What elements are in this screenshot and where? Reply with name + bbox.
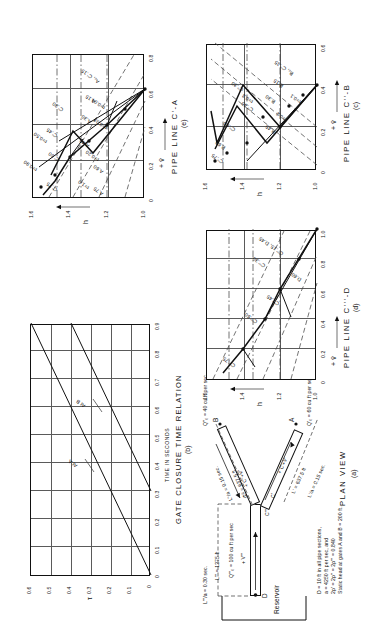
cpp-b-xlabel-arrow bbox=[332, 74, 342, 114]
xtick: 0.9 bbox=[154, 323, 160, 330]
gate-closure-ylabel: τ bbox=[86, 597, 93, 600]
figure-plate: Reservoir D A B bbox=[0, 0, 367, 628]
cpp-b-ylabel-arrow bbox=[228, 174, 268, 184]
ytick: 0.1 bbox=[126, 587, 132, 594]
gate-closure-axes: At A At B bbox=[30, 324, 150, 576]
xtick: 0.4 bbox=[154, 463, 160, 470]
cp-a-ylabel-arrow bbox=[54, 202, 94, 212]
cpp-b-xlabel: + v̄ bbox=[330, 120, 337, 130]
cppp-d-xlabel: + v̄ bbox=[330, 356, 337, 366]
xtick: 0.6 bbox=[320, 45, 326, 52]
plan-view-panel-tag: (a) bbox=[350, 469, 357, 478]
xtick: 0.6 bbox=[154, 407, 160, 414]
plan-note-1: D = 10 ft in all pipe sections, bbox=[316, 506, 322, 594]
panel-pipe-line-cp-a: C'.75 A.75 A.60 C'.60 A.45 C'.45 A.30 C'… bbox=[24, 24, 194, 224]
cp-a-xlabel: + v̄ bbox=[158, 158, 165, 168]
cpp-b-panel-tag: (c) bbox=[352, 102, 359, 110]
panel-pipe-line-cpp-b: C''.75 B.60 C''.60 C''.45 B.45 B.30 C''.… bbox=[198, 10, 364, 196]
cp-a-xlabel-arrow bbox=[160, 112, 170, 152]
cppp-d-axes: C'''.75 C'''.60 C'''.45 C'''.30 C'''.15,… bbox=[206, 230, 316, 380]
ytick: 1.6 bbox=[202, 393, 208, 400]
xtick: 0.2 bbox=[154, 519, 160, 526]
xtick: 0.2 bbox=[320, 129, 326, 136]
cppp-d-ylabel: h bbox=[256, 402, 263, 406]
gate-closure-curves bbox=[31, 323, 151, 575]
node-D-label: D bbox=[261, 593, 268, 598]
xtick: 0 bbox=[320, 381, 326, 384]
xtick: 0.1 bbox=[154, 547, 160, 554]
ytick: 1.2 bbox=[276, 183, 282, 190]
cp-a-title: PIPE LINE C'-A bbox=[170, 99, 179, 174]
ytick: 0.4 bbox=[66, 587, 72, 594]
main-time-label: L'''/a = 0.30 sec. bbox=[202, 566, 208, 604]
plan-view-caption: PLAN VIEW bbox=[338, 450, 347, 506]
plan-notes: D = 10 ft in all pipe sections, a = 4250… bbox=[316, 506, 340, 594]
cppp-d-title: PIPE LINE C'''-D bbox=[342, 286, 351, 368]
ytick: 1.6 bbox=[202, 183, 208, 190]
ytick: 1.0 bbox=[312, 393, 318, 400]
ytick: 1.6 bbox=[28, 211, 34, 218]
gate-closure-xlabel: TIME IN SECONDS bbox=[164, 428, 170, 482]
cp-a-panel-tag: (e) bbox=[180, 119, 187, 128]
xtick: 0.8 bbox=[148, 55, 154, 62]
ytick: 1.2 bbox=[103, 211, 109, 218]
cpp-b-ylabel: h bbox=[256, 192, 263, 196]
panel-gate-closure: At A At B 0 0.1 0.2 0.3 0.4 0.5 0.6 0.7 … bbox=[24, 300, 192, 600]
xtick: 0 bbox=[320, 171, 326, 174]
xtick: 0.6 bbox=[320, 291, 326, 298]
series-leader-b bbox=[91, 393, 105, 415]
xtick: 0.2 bbox=[148, 163, 154, 170]
xtick: 0.6 bbox=[148, 91, 154, 98]
plan-note-4: Static head at gates A and B = 200 ft. bbox=[337, 506, 343, 594]
ytick: 0.2 bbox=[106, 587, 112, 594]
ytick: 0 bbox=[146, 585, 152, 588]
xtick: 0.8 bbox=[154, 351, 160, 358]
cppp-d-xlabel-arrow bbox=[332, 310, 342, 350]
cppp-d-ylabel-arrow bbox=[228, 384, 268, 394]
ytick: 1.0 bbox=[312, 183, 318, 190]
xtick: 0 bbox=[154, 575, 160, 578]
xtick: 0 bbox=[148, 199, 154, 202]
xtick: 0.4 bbox=[320, 87, 326, 94]
junction-label-cp: C' bbox=[270, 493, 276, 498]
xtick: 0.5 bbox=[154, 435, 160, 442]
ytick: 0.5 bbox=[46, 587, 52, 594]
panel-pipe-line-cppp-d: C'''.75 C'''.60 C'''.45 C'''.30 C'''.15,… bbox=[198, 206, 364, 406]
xtick: 0.7 bbox=[154, 379, 160, 386]
xtick: 0.4 bbox=[148, 127, 154, 134]
xtick: 0.8 bbox=[320, 261, 326, 268]
plan-note-3: 2ρ' = 2ρ'' = 2ρ''' = 0.840 bbox=[330, 506, 336, 594]
gate-closure-panel-tag: (b) bbox=[184, 445, 191, 454]
xtick: 0.2 bbox=[320, 351, 326, 358]
xtick: 1.0 bbox=[320, 231, 326, 238]
xtick: 0.4 bbox=[320, 321, 326, 328]
ytick: 1.0 bbox=[140, 211, 146, 218]
series-leader-a bbox=[83, 453, 97, 475]
cppp-d-panel-tag: (d) bbox=[352, 303, 359, 312]
cpp-b-title: PIPE LINE C''-B bbox=[342, 84, 351, 162]
main-length-label: L''' = 1275 ft bbox=[214, 551, 220, 580]
xtick: 0.3 bbox=[154, 491, 160, 498]
cpp-b-axes: C''.75 B.60 C''.60 C''.45 B.45 B.30 C''.… bbox=[206, 44, 316, 170]
ytick: 0.3 bbox=[86, 587, 92, 594]
ytick: 1.2 bbox=[276, 393, 282, 400]
ytick: 0.6 bbox=[26, 587, 32, 594]
junction-label-cppp: C''' bbox=[264, 509, 270, 516]
plan-note-2: a = 4250 ft per sec, and bbox=[323, 506, 329, 594]
cp-a-ylabel: h bbox=[82, 220, 89, 224]
cp-a-axes: C'.75 A.75 A.60 C'.60 A.45 C'.45 A.30 C'… bbox=[32, 54, 144, 198]
main-flow-label: Q'''₀ = 100 cu ft per sec bbox=[228, 523, 234, 578]
gate-closure-title: GATE CLOSURE TIME RELATION bbox=[174, 374, 183, 524]
